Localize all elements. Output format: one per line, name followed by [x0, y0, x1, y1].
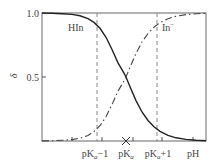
y-axis-label: δ [8, 73, 19, 78]
chart: 1.0 0.5 δ HIn In− pKa−1 pKa pKa+1 pH [0, 0, 216, 164]
series-in-curve [42, 13, 206, 141]
series-label-hin: HIn [68, 22, 84, 33]
y-tick-label-0.5: 0.5 [27, 72, 40, 83]
x-tick-label-pka-plus-1: pKa+1 [145, 148, 171, 161]
series-hin-curve [42, 13, 206, 141]
x-tick-label-pka-minus-1: pKa−1 [82, 148, 108, 161]
series-label-in: In− [162, 21, 174, 33]
y-tick-label-1.0: 1.0 [27, 8, 40, 19]
x-axis-label-ph: pH [187, 148, 199, 159]
x-tick-label-pka: pKa [118, 148, 134, 161]
plot-frame [42, 13, 206, 141]
